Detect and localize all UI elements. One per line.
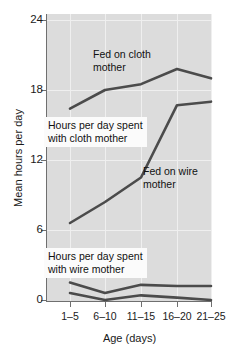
gridline-vertical-5	[211, 14, 212, 301]
gridline-vertical-4	[177, 14, 178, 301]
gridline-horizontal-12	[47, 160, 212, 161]
gridline-horizontal-6	[47, 230, 212, 231]
x-axis-title: Age (days)	[47, 332, 212, 344]
y-tick-label-0: 0	[9, 294, 43, 305]
gridline-horizontal-24	[47, 20, 212, 21]
x-tick-mark-1	[70, 302, 71, 307]
chart-container: 24 18 12 6 0 1–5 6–10 11–15 16–20 21–25 …	[0, 0, 242, 354]
annotation-fed-cloth-mother: Fed on cloth mother	[93, 48, 151, 73]
x-tick-mark-5	[211, 302, 212, 307]
annotation-hours-cloth-mother: Hours per day spent with cloth mother	[44, 117, 147, 147]
x-tick-mark-3	[141, 302, 142, 307]
annotation-hours-wire-mother: Hours per day spent with wire mother	[44, 248, 147, 278]
y-axis-title: Mean hours per day	[12, 78, 24, 238]
x-tick-mark-2	[105, 302, 106, 307]
annotation-fed-wire-mother: Fed on wire mother	[143, 165, 198, 190]
gridline-horizontal-18	[47, 90, 212, 91]
x-tick-mark-4	[177, 302, 178, 307]
y-tick-label-24: 24	[9, 14, 43, 25]
x-axis-line	[47, 301, 212, 302]
x-tick-label-5: 21–25	[189, 310, 233, 322]
